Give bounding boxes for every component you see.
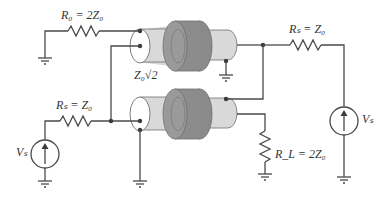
left-source-branch <box>31 116 142 187</box>
vs-left-label: Vₛ <box>16 145 27 160</box>
coax-top <box>130 21 237 71</box>
rl-label: R_L = 2Z₀ <box>275 147 326 162</box>
r0-branch <box>38 26 140 64</box>
rs-left-label: Rₛ = Z₀ <box>56 98 92 113</box>
coax-impedance-label: Z₀√2 <box>134 68 157 83</box>
vs-right-label: Vₛ <box>362 112 373 127</box>
rl-branch <box>237 114 272 180</box>
coax-bottom <box>130 89 237 139</box>
r0-label: R₀ = 2Z₀ <box>61 8 103 23</box>
rs-right-label: Rₛ = Z₀ <box>289 22 325 37</box>
